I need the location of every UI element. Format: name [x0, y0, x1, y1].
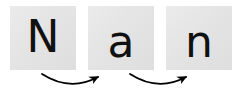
arrow-a-to-n-icon	[130, 74, 186, 84]
letter-glyph-n-lower: n	[185, 20, 213, 64]
letter-blending-diagram: N a n	[0, 0, 244, 99]
letter-tile-2[interactable]: a	[88, 6, 154, 70]
letter-tile-1[interactable]: N	[10, 6, 76, 70]
arrow-n-to-a-icon	[42, 74, 98, 84]
letter-tile-3[interactable]: n	[166, 6, 232, 70]
letter-glyph-n-upper: N	[27, 15, 60, 59]
letter-glyph-a: a	[108, 20, 135, 64]
